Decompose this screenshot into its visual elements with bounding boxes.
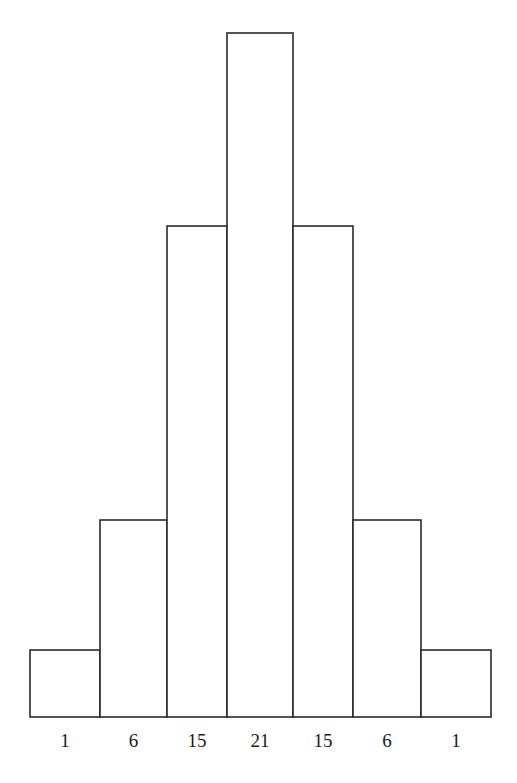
bar-4 <box>293 226 353 717</box>
bar-2 <box>167 226 227 717</box>
bar-label-0: 1 <box>60 730 70 751</box>
bar-0 <box>30 650 100 717</box>
bar-label-1: 6 <box>129 730 139 751</box>
bar-label-4: 15 <box>314 730 333 751</box>
bar-label-2: 15 <box>188 730 207 751</box>
bar-1 <box>100 520 167 717</box>
bar-label-6: 1 <box>451 730 461 751</box>
bar-3 <box>227 33 293 717</box>
bars-group <box>30 33 491 717</box>
bar-label-5: 6 <box>382 730 392 751</box>
bar-5 <box>353 520 421 717</box>
labels-group: 1615211561 <box>60 730 461 751</box>
bar-6 <box>421 650 491 717</box>
histogram-chart: 1615211561 <box>0 0 517 783</box>
bar-label-3: 21 <box>251 730 270 751</box>
